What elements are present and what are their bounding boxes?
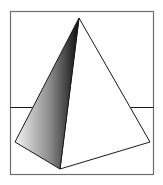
pyramid-diagram (0, 0, 163, 185)
